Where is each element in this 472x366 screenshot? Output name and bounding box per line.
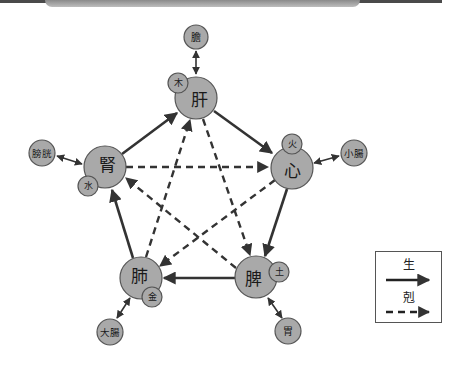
legend-controlling-label: 剋 <box>376 288 441 305</box>
arrow-kidney-liver <box>122 113 177 154</box>
arrow-heart-lung <box>160 180 275 266</box>
arrow-heart-small-intestine <box>314 156 339 163</box>
heart-label: 心 <box>284 161 301 181</box>
node-lung: 肺 金 <box>120 257 162 307</box>
stomach-label: 胃 <box>283 326 293 337</box>
spleen-label: 脾 <box>245 269 262 289</box>
small-intestine-label: 小腸 <box>344 148 364 159</box>
node-small-intestine: 小腸 <box>341 140 367 166</box>
legend: 生 剋 <box>375 251 442 323</box>
arrow-lung-large-intestine <box>117 298 130 318</box>
arrow-spleen-stomach <box>268 298 282 318</box>
node-stomach: 胃 <box>275 318 301 344</box>
arrow-lung-kidney <box>112 190 133 258</box>
arrow-heart-spleen <box>265 189 287 256</box>
gallbladder-label: 膽 <box>191 31 201 43</box>
element-wood-label: 木 <box>174 77 183 88</box>
element-fire-label: 火 <box>288 139 297 149</box>
arrow-spleen-kidney <box>126 178 236 268</box>
kidney-label: 腎 <box>99 155 116 175</box>
node-gallbladder: 膽 <box>184 25 208 49</box>
node-heart: 心 火 <box>271 134 313 189</box>
legend-arrows <box>376 252 441 322</box>
element-metal-label: 金 <box>148 291 157 302</box>
liver-label: 肝 <box>191 90 208 110</box>
node-bladder: 膀胱 <box>29 140 55 166</box>
large-intestine-label: 大腸 <box>100 327 120 338</box>
lung-label: 肺 <box>131 266 148 286</box>
element-earth-label: 土 <box>275 266 284 277</box>
node-spleen: 脾 土 <box>235 256 289 298</box>
arrow-liver-spleen <box>203 119 250 255</box>
controlling-arrows <box>126 119 275 268</box>
node-liver: 肝 木 <box>168 73 217 119</box>
bladder-label: 膀胱 <box>32 148 52 159</box>
arrow-lung-liver <box>146 120 190 257</box>
node-large-intestine: 大腸 <box>97 319 123 345</box>
arrow-liver-heart <box>214 111 272 153</box>
arrow-kidney-bladder <box>57 156 82 164</box>
generating-arrows <box>112 111 287 278</box>
element-water-label: 水 <box>84 180 93 191</box>
node-kidney: 腎 水 <box>78 146 126 196</box>
